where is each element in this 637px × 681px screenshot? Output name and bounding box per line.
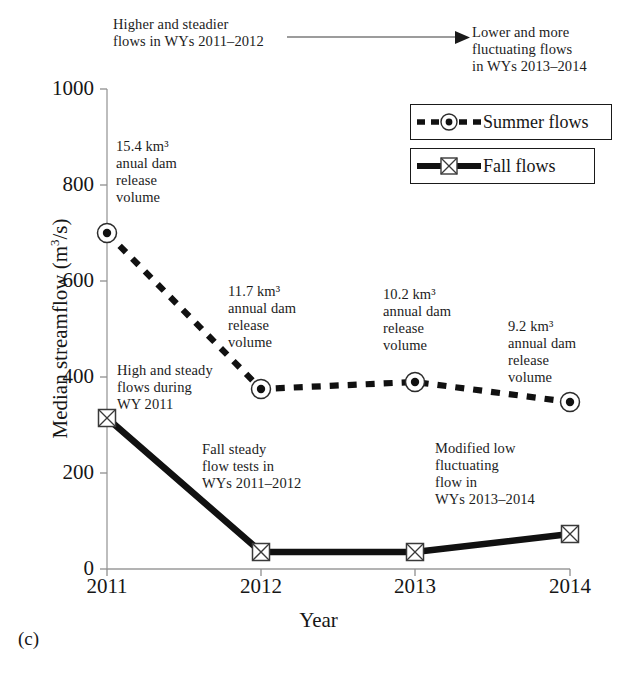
figure-panel-c: 1000 800 600 400 200 0 2011 2012 2013 20… bbox=[0, 0, 637, 681]
annotation-fall-steady-tests: Fall steady flow tests in WYs 2011–2012 bbox=[202, 441, 337, 492]
legend-label-fall-flows: Fall flows bbox=[483, 156, 556, 177]
annotation-lower-fluctuating: Lower and more fluctuating flows in WYs … bbox=[472, 24, 632, 75]
annotation-release-volume-2012: 11.7 km³ annual dam release volume bbox=[228, 283, 348, 351]
y-tick-label-1000: 1000 bbox=[20, 78, 94, 99]
annotation-modified-low-fluctuating: Modified low fluctuating flow in WYs 201… bbox=[435, 440, 585, 508]
annotation-release-volume-2013: 10.2 km³ annual dam release volume bbox=[383, 286, 503, 354]
x-tick-label-2013: 2013 bbox=[375, 576, 455, 597]
x-tick-label-2012: 2012 bbox=[221, 576, 301, 597]
marker-summer-2014 bbox=[561, 393, 580, 412]
annotation-high-steady-wy2011: High and steady flows during WY 2011 bbox=[117, 362, 242, 413]
marker-fall-2011 bbox=[99, 410, 116, 427]
legend-item-summer-flows[interactable]: Summer flows bbox=[410, 104, 612, 140]
annotation-higher-steadier: Higher and steadier flows in WYs 2011–20… bbox=[113, 16, 278, 50]
x-tick-label-2011: 2011 bbox=[67, 576, 147, 597]
square-x-icon bbox=[417, 155, 481, 177]
annotation-release-volume-2011: 15.4 km³ anual dam release volume bbox=[116, 138, 226, 206]
trend-arrow-icon bbox=[287, 31, 470, 44]
y-axis-title: Median streamflow (m3/s) bbox=[48, 164, 73, 494]
marker-fall-2013 bbox=[407, 544, 424, 561]
legend-label-summer-flows: Summer flows bbox=[483, 112, 589, 133]
marker-summer-2013 bbox=[406, 373, 425, 392]
x-axis-ticks bbox=[107, 569, 570, 576]
y-axis-ticks bbox=[100, 89, 107, 569]
x-tick-label-2014: 2014 bbox=[530, 576, 610, 597]
marker-fall-2014 bbox=[562, 526, 579, 543]
panel-label: (c) bbox=[18, 628, 39, 650]
legend-item-fall-flows[interactable]: Fall flows bbox=[410, 148, 595, 184]
circle-dot-icon bbox=[417, 111, 481, 133]
marker-fall-2012 bbox=[253, 544, 270, 561]
annotation-release-volume-2014: 9.2 km³ annual dam release volume bbox=[508, 318, 623, 386]
marker-summer-2012 bbox=[252, 380, 271, 399]
marker-summer-2011 bbox=[98, 224, 117, 243]
x-axis-title: Year bbox=[0, 608, 637, 633]
